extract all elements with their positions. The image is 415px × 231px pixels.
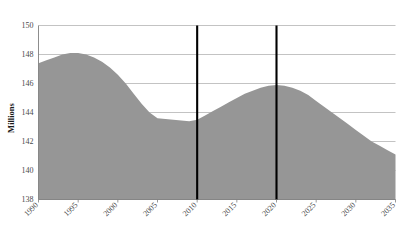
y-tick-label-146: 146 [22, 79, 34, 88]
y-tick-label-150: 150 [22, 21, 34, 30]
y-tick-label-142: 142 [22, 137, 34, 146]
y-axis-title: Millions [6, 102, 16, 132]
chart-canvas: 150148146144142140138 199019952000200520… [0, 0, 415, 231]
y-axis-title-group: Millions [6, 102, 16, 132]
y-tick-label-144: 144 [22, 108, 34, 117]
y-tick-label-140: 140 [22, 166, 34, 175]
y-tick-label-148: 148 [22, 50, 34, 59]
population-area-chart: 150148146144142140138 199019952000200520… [0, 0, 415, 231]
